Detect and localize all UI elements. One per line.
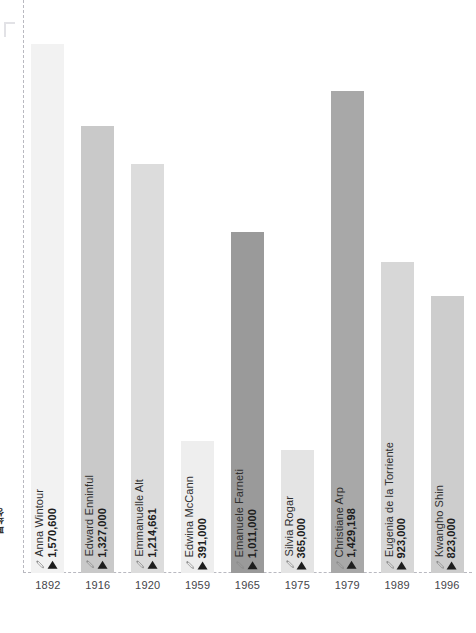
bar-value-label: 365,000 [296,518,308,569]
bar-name-label: Kwangho Shin [434,485,446,569]
bar-group[interactable]: Edwina McCann391,000 [181,0,214,573]
triangle-up-icon [397,561,407,569]
triangle-up-icon [148,561,158,569]
bar-name-label: Emmanuelle Alt [134,479,146,569]
bar-name-text: Kwangho Shin [434,485,446,557]
bar-name-text: Eugenia de la Torriente [384,442,396,557]
x-axis-tick-labels: 189219161920195919651975197919891996 [23,574,472,604]
bar-value-label: 1,327,000 [97,508,109,569]
bar-group[interactable]: Edward Enninful1,327,000 [81,0,114,573]
x-tick-label: 1916 [73,579,123,591]
x-tick-label: 1996 [422,579,472,591]
x-tick-label: 1975 [272,579,322,591]
bar-value-text: 923,000 [396,518,408,558]
pencil-icon [285,560,294,569]
bar-name-text: Emanuele Farneti [234,469,246,557]
bar-label-stack: Silvia Rogar365,000 [281,439,314,569]
triangle-up-icon [98,561,108,569]
bar-value-label: 1,429,198 [346,508,358,569]
bar-name-label: Anna Wintour [34,489,46,569]
bar-label-stack: Christiane Arp1,429,198 [331,439,364,569]
x-tick-label: 1979 [322,579,372,591]
bar-group[interactable]: Christiane Arp1,429,198 [331,0,364,573]
pencil-icon [36,560,45,569]
bar-value-text: 391,000 [197,518,209,558]
triangle-up-icon [197,561,207,569]
bar-name-label: Edward Enninful [84,475,96,569]
pencil-icon [335,560,344,569]
bar-value-text: 1,011,000 [247,509,259,558]
bar-label-stack: Anna Wintour1,570,600 [31,439,64,569]
triangle-up-icon [297,561,307,569]
bar-value-label: 1,011,000 [247,509,259,569]
bar-value-text: 1,429,198 [346,508,358,558]
bar-label-stack: Eugenia de la Torriente923,000 [381,439,414,569]
triangle-up-icon [347,561,357,569]
triangle-up-icon [247,561,257,569]
bar-name-text: Christiane Arp [334,487,346,558]
pencil-icon [135,560,144,569]
x-tick-label: 1959 [173,579,223,591]
pencil-icon [235,560,244,569]
bar-name-label: Edwina McCann [184,476,196,569]
bar-value-label: 923,000 [396,518,408,569]
bar-value-label: 391,000 [197,518,209,569]
bar-name-label: Silvia Rogar [284,496,296,569]
pencil-icon [385,560,394,569]
bar-name-label: Christiane Arp [334,487,346,570]
bar-value-label: 1,214,661 [147,508,159,569]
bar-group[interactable]: Emanuele Farneti1,011,000 [231,0,264,573]
bar-name-label: Eugenia de la Torriente [384,442,396,569]
triangle-up-icon [447,561,457,569]
pencil-icon [435,560,444,569]
bar-name-text: Edwina McCann [184,476,196,557]
bar-group[interactable]: Kwangho Shin823,000 [431,0,464,573]
bar-value-label: 823,000 [446,518,458,569]
bar-name-label: Emanuele Farneti [234,469,246,569]
bar-value-text: 365,000 [296,518,308,558]
bar-group[interactable]: Emmanuelle Alt1,214,661 [131,0,164,573]
bar-name-text: Anna Wintour [34,489,46,557]
bar-group[interactable]: Silvia Rogar365,000 [281,0,314,573]
x-tick-label: 1920 [123,579,173,591]
bar-name-text: Edward Enninful [84,475,96,557]
bar-label-stack: Kwangho Shin823,000 [431,439,464,569]
bar-group[interactable]: Eugenia de la Torriente923,000 [381,0,414,573]
bar-group[interactable]: Anna Wintour1,570,600 [31,0,64,573]
bar-label-stack: Edwina McCann391,000 [181,439,214,569]
bar-label-stack: Edward Enninful1,327,000 [81,439,114,569]
bar-name-text: Silvia Rogar [284,496,296,557]
bar-value-text: 823,000 [446,518,458,558]
bars-layer: Anna Wintour1,570,600Edward Enninful1,32… [23,0,472,573]
x-tick-label: 1989 [372,579,422,591]
x-tick-label: 1965 [223,579,273,591]
bar-label-stack: Emmanuelle Alt1,214,661 [131,439,164,569]
chart-canvas: 폐쇄성 Anna Wintour1,570,600Edward Enninful… [0,0,476,633]
bar-name-text: Emmanuelle Alt [134,479,146,557]
bar-value-label: 1,570,600 [47,508,59,569]
triangle-up-icon [48,561,58,569]
bar-value-text: 1,214,661 [147,508,159,558]
pencil-icon [86,560,95,569]
pencil-icon [185,560,194,569]
bar-value-text: 1,570,600 [47,508,59,558]
bar-label-stack: Emanuele Farneti1,011,000 [231,439,264,569]
corner-bracket-mark [4,22,15,37]
vertical-axis-caption: 폐쇄성 [0,508,5,534]
x-tick-label: 1892 [23,579,73,591]
bar-value-text: 1,327,000 [97,508,109,558]
